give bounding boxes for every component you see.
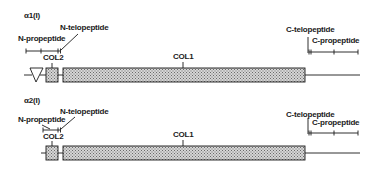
alpha2-col2-box [46,146,58,160]
collagen-chain-diagram: α1(I) N-telopeptide N-propeptide COL2 CO… [0,0,378,171]
alpha1-col2-label: COL2 [43,54,64,62]
alpha2-n-propeptide-label: N-propeptide [18,116,65,124]
alpha1-col1-label: COL1 [173,53,194,61]
alpha1-col2-box [46,68,58,82]
alpha1-n-telopeptide-label: N-telopeptide [60,24,109,32]
alpha1-c-propeptide-label: C-propeptide [312,37,359,45]
alpha1-chain-title: α1(I) [24,12,40,20]
alpha2-c-propeptide-label: C-propeptide [312,119,359,127]
alpha2-chain-title: α2(I) [24,97,40,105]
alpha1-col1-box [63,68,305,82]
alpha1-c-telopeptide-label: C-telopeptide [286,26,335,34]
alpha2-col1-box [63,146,305,160]
alpha2-col2-label: COL2 [43,133,64,141]
alpha1-c-propeptide-bar [309,50,358,55]
alpha1-n-propeptide-label: N-propeptide [18,35,65,43]
alpha2-col1-label: COL1 [173,131,194,139]
alpha2-n-telopeptide-label: N-telopeptide [60,108,109,116]
alpha2-c-propeptide-bar [309,131,358,136]
